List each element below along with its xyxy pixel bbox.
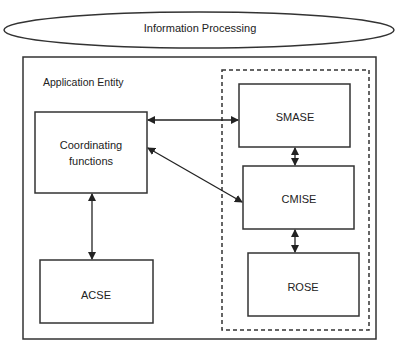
acse-node: ACSE (40, 260, 153, 323)
coordinating-functions-node: Coordinating functions (35, 112, 147, 193)
acse-label: ACSE (81, 289, 111, 301)
cmise-node: CMISE (243, 166, 354, 229)
diagram-canvas: Information Processing Application Entit… (0, 0, 402, 354)
edge-coordinating-cmise (148, 148, 242, 202)
smase-node: SMASE (239, 84, 350, 147)
coordinating-label-line1: Coordinating (60, 139, 122, 151)
smase-label: SMASE (276, 111, 315, 123)
information-processing-label: Information Processing (144, 22, 257, 34)
information-processing-ellipse: Information Processing (4, 12, 394, 48)
coordinating-label-line2: functions (69, 155, 114, 167)
cmise-label: CMISE (282, 193, 317, 205)
rose-node: ROSE (248, 253, 359, 316)
application-entity-label: Application Entity (43, 76, 124, 88)
rose-label: ROSE (287, 281, 318, 293)
